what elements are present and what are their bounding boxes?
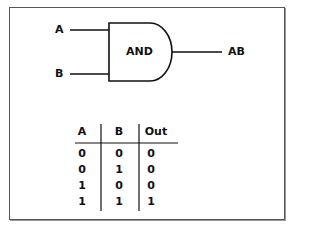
table-cell: 1 (111, 196, 127, 207)
table-header-a: A (74, 126, 90, 137)
table-cell: 0 (74, 164, 90, 175)
table-cell: 1 (111, 164, 127, 175)
table-header-out: Out (143, 126, 169, 137)
table-cell: 1 (143, 196, 159, 207)
table-cell: 0 (111, 148, 127, 159)
output-label: AB (228, 46, 245, 57)
input-a-label: A (55, 24, 64, 35)
table-cell: 0 (143, 164, 159, 175)
gate-label: AND (126, 46, 153, 57)
table-cell: 1 (74, 196, 90, 207)
table-header-b: B (111, 126, 127, 137)
table-cell: 0 (143, 180, 159, 191)
input-b-label: B (55, 68, 63, 79)
table-cell: 1 (74, 180, 90, 191)
table-cell: 0 (143, 148, 159, 159)
table-cell: 0 (74, 148, 90, 159)
table-cell: 0 (111, 180, 127, 191)
